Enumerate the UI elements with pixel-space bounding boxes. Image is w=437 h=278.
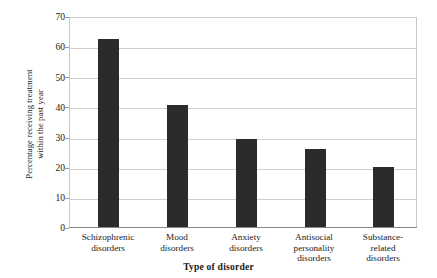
y-tick-label-60: 60 [43,42,65,52]
y-tick-label-30: 30 [43,133,65,143]
x-axis-baseline [69,227,417,228]
y-axis-tick-labels: 70 60 50 40 30 20 10 0 [41,0,65,278]
bar-series [70,18,416,227]
y-tick-label-20: 20 [43,163,65,173]
y-tick-label-10: 10 [43,193,65,203]
y-tick-label-0: 0 [43,223,65,233]
y-tick-label-70: 70 [43,12,65,22]
bar-schizophrenic-disorders [98,39,119,227]
bar-antisocial-personality-disorders [305,149,326,227]
bar-substance-related-disorders [373,167,394,227]
x-axis-title: Type of disorder [0,261,437,272]
bar-chart-figure: Percentage receiving treatment within th… [0,0,437,278]
x-tick-label-substance-related-disorders: Substance- related disorders [340,232,426,264]
y-axis-title-line-1: Percentage receiving treatment [24,69,35,178]
plot-area [69,17,417,228]
bar-anxiety-disorders [236,139,257,227]
x-tick-line: related [340,243,426,254]
y-tick-label-40: 40 [43,103,65,113]
bar-mood-disorders [167,105,188,227]
y-tick-label-50: 50 [43,73,65,83]
x-tick-line: Substance- [340,232,426,243]
